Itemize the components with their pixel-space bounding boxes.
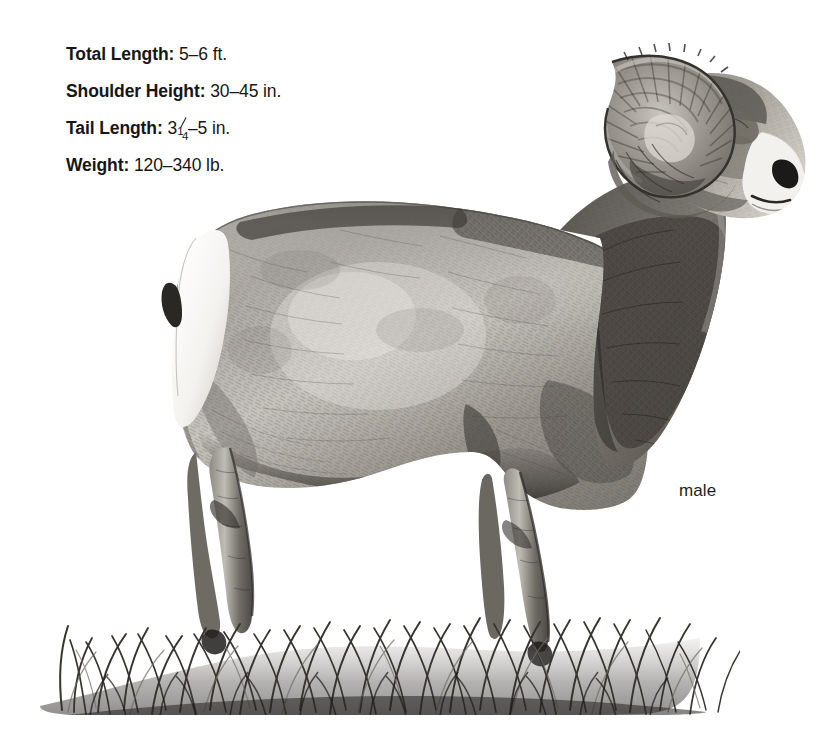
stat-tail-length-label: Tail Length:	[66, 118, 163, 138]
stat-total-length-value: 5–6 ft.	[179, 44, 227, 64]
measurements-list: Total Length: 5–6 ft. Shoulder Height: 3…	[66, 36, 281, 184]
stat-shoulder-height: Shoulder Height: 30–45 in.	[66, 73, 281, 110]
stat-total-length-label: Total Length:	[66, 44, 174, 64]
fraction-denominator: 4	[182, 118, 188, 155]
stat-weight-label: Weight:	[66, 155, 129, 175]
stat-total-length: Total Length: 5–6 ft.	[66, 36, 281, 73]
grass-foreground	[40, 618, 742, 719]
stat-tail-length: Tail Length: 314–5 in.	[66, 110, 281, 147]
stat-tail-length-value-pre: 3	[167, 118, 177, 138]
sex-caption-male: male	[679, 481, 716, 501]
stat-shoulder-height-label: Shoulder Height:	[66, 81, 205, 101]
stat-shoulder-height-value: 30–45 in.	[210, 81, 281, 101]
illustration-page: Total Length: 5–6 ft. Shoulder Height: 3…	[0, 0, 835, 754]
stat-weight: Weight: 120–340 lb.	[66, 147, 281, 184]
tail-length-fraction: 14	[177, 117, 188, 135]
stat-weight-value: 120–340 lb.	[134, 155, 224, 175]
stat-tail-length-value-post: –5 in.	[188, 118, 230, 138]
